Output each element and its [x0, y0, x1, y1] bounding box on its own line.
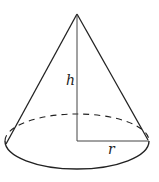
- radius-label: r: [108, 141, 116, 157]
- cone-diagram: h r: [0, 0, 159, 182]
- cone-figure: h r: [0, 0, 159, 182]
- base-visible-arc: [5, 141, 149, 169]
- height-label: h: [66, 72, 75, 88]
- cone-right-slant: [77, 14, 148, 140]
